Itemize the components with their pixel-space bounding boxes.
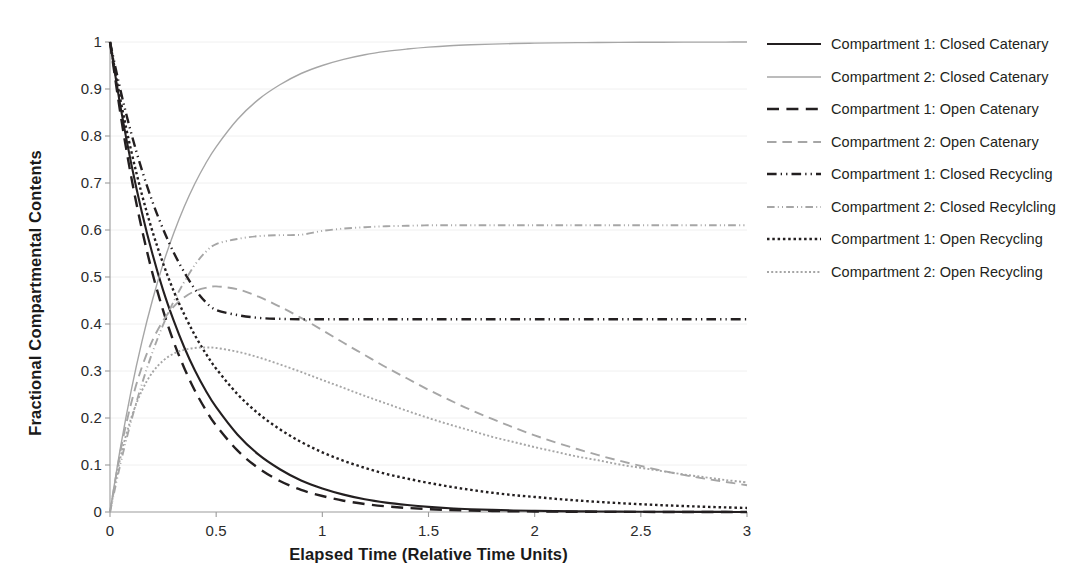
- legend-item-label: Compartment 2: Closed Catenary: [831, 69, 1049, 85]
- legend-item[interactable]: Compartment 2: Closed Recylcling: [766, 191, 1082, 224]
- chart-figure: Fractional Compartmental Contents 00.10.…: [0, 0, 1085, 586]
- legend-line-swatch: [766, 265, 822, 279]
- x-tick-label: 0: [106, 523, 114, 538]
- legend-item[interactable]: Compartment 1: Open Recycling: [766, 223, 1082, 256]
- legend-item[interactable]: Compartment 1: Closed Catenary: [766, 28, 1082, 61]
- legend-item-label: Compartment 1: Closed Recycling: [831, 166, 1053, 182]
- x-tick-label: 1.5: [418, 523, 439, 538]
- legend-line-swatch: [766, 37, 822, 51]
- x-tick-label: 3: [743, 523, 751, 538]
- legend-item-label: Compartment 2: Open Catenary: [831, 134, 1039, 150]
- legend-item[interactable]: Compartment 1: Closed Recycling: [766, 158, 1082, 191]
- legend-line-swatch: [766, 200, 822, 214]
- legend-item[interactable]: Compartment 2: Open Recycling: [766, 256, 1082, 289]
- legend-item[interactable]: Compartment 1: Open Catenary: [766, 93, 1082, 126]
- x-tick-label: 0.5: [206, 523, 227, 538]
- legend-line-swatch: [766, 135, 822, 149]
- x-tick-label: 1: [318, 523, 326, 538]
- legend-item[interactable]: Compartment 2: Open Catenary: [766, 126, 1082, 159]
- legend-item-label: Compartment 2: Closed Recylcling: [831, 199, 1056, 215]
- legend-item-label: Compartment 1: Open Catenary: [831, 101, 1039, 117]
- x-tick-label: 2.5: [630, 523, 651, 538]
- legend-line-swatch: [766, 102, 822, 116]
- legend-line-swatch: [766, 167, 822, 181]
- x-axis-title: Elapsed Time (Relative Time Units): [110, 545, 747, 564]
- legend-item[interactable]: Compartment 2: Closed Catenary: [766, 61, 1082, 94]
- chart-legend: Compartment 1: Closed CatenaryCompartmen…: [766, 28, 1082, 288]
- legend-item-label: Compartment 1: Closed Catenary: [831, 36, 1049, 52]
- x-tick-label: 2: [530, 523, 538, 538]
- legend-line-swatch: [766, 70, 822, 84]
- legend-line-swatch: [766, 232, 822, 246]
- legend-item-label: Compartment 2: Open Recycling: [831, 264, 1043, 280]
- legend-item-label: Compartment 1: Open Recycling: [831, 231, 1043, 247]
